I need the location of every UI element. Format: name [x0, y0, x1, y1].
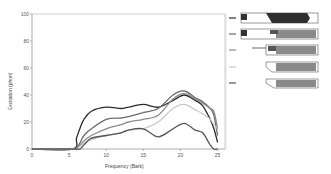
x-axis-label: Frequency (Bark) [105, 163, 144, 169]
y-tick-label: 60 [23, 65, 29, 71]
x-tick-label: 20 [178, 152, 184, 158]
y-tick-label: 0 [26, 146, 29, 152]
stimulus-icon-1 [241, 13, 318, 23]
x-tick-label: 0 [31, 152, 34, 158]
stimulus-icon-4 [266, 62, 318, 72]
series-line-1 [32, 95, 218, 150]
y-tick-label: 80 [23, 38, 29, 44]
series-lines [32, 91, 218, 150]
stimulus-icon-3 [252, 45, 318, 55]
x-tick-label: 5 [68, 152, 71, 158]
x-tick-label: 10 [103, 152, 109, 158]
y-ticks: 020406080100 [21, 11, 32, 152]
excitation-chart: 020406080100 0510152025 Frequency (Bark)… [0, 0, 331, 174]
stimulus-icon-5 [266, 79, 318, 88]
y-axis-label: Excitation (phon) [7, 72, 13, 110]
series-line-2 [32, 91, 218, 150]
y-tick-label: 40 [23, 92, 29, 98]
stimulus-icon-2 [241, 29, 318, 39]
y-tick-label: 20 [23, 119, 29, 125]
series-line-3 [32, 94, 218, 150]
legend [226, 13, 318, 149]
x-tick-label: 25 [215, 152, 221, 158]
axes [32, 14, 225, 149]
series-line-5 [32, 123, 218, 149]
x-tick-label: 15 [141, 152, 147, 158]
y-tick-label: 100 [21, 11, 30, 17]
